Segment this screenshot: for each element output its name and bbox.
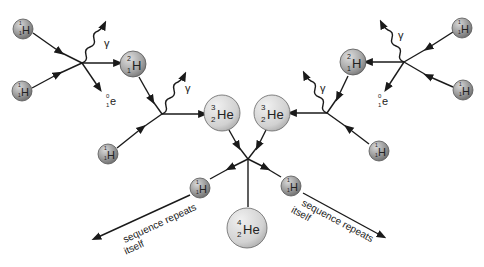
svg-text:H: H: [290, 181, 298, 193]
svg-text:3: 3: [211, 103, 216, 112]
svg-text:He: He: [217, 107, 234, 122]
svg-text:2: 2: [211, 115, 216, 124]
svg-text:H: H: [107, 149, 115, 161]
gamma-label-right-2: γ: [320, 82, 326, 94]
nucleus-h2-right: 2 1 H: [340, 49, 366, 75]
svg-text:e: e: [382, 95, 388, 107]
svg-text:H: H: [462, 85, 470, 97]
svg-text:H: H: [461, 23, 469, 35]
sequence-repeats-right-label: sequence repeats itself: [290, 194, 376, 254]
arrow-h1-in-top-right: [428, 32, 453, 48]
svg-text:4: 4: [237, 218, 242, 227]
arrow-h2-left-down: [139, 77, 152, 100]
arrow-h1-out-right: [248, 159, 266, 168]
gamma-wave-left-1: [82, 25, 104, 63]
arrow-h1-in-lower-left: [117, 128, 142, 148]
gamma-wave-left-2: [162, 76, 184, 114]
nucleus-h1-top-right: 1 1 H: [452, 18, 472, 38]
arrow-he3-left-in: [229, 130, 238, 146]
arrow-h1-in-lower-right: [348, 128, 369, 144]
arrow-h1-in-bottom-left: [32, 74, 58, 88]
nucleus-h1-lower-right: 1 1 H: [369, 141, 389, 161]
nucleus-h1-product-left: 1 1 H: [190, 178, 210, 198]
svg-text:3: 3: [261, 103, 266, 112]
positron-label-right: 0 1 e: [378, 93, 388, 108]
arrow-positron-right: [387, 62, 404, 88]
arrow-h1-in-bottom-right: [428, 76, 453, 87]
svg-text:H: H: [22, 24, 30, 36]
arrow-positron-left: [82, 63, 99, 88]
nucleus-h1-lower-left: 1 1 H: [98, 144, 118, 164]
arrow-h1-in-top-left: [33, 33, 60, 52]
nucleus-he3-left: 3 2 He: [204, 95, 240, 131]
gamma-label-left-1: γ: [104, 37, 110, 49]
sequence-repeats-left-label: sequence repeats itself: [118, 201, 203, 256]
nucleus-h1-product-right: 1 1 H: [281, 176, 301, 196]
svg-text:2: 2: [237, 230, 242, 239]
gamma-wave-right-2: [305, 75, 327, 113]
svg-text:1: 1: [347, 65, 351, 72]
gamma-label-left-2: γ: [185, 82, 191, 94]
svg-text:H: H: [21, 86, 29, 98]
nucleus-h2-left: 2 1 H: [120, 51, 146, 77]
svg-text:sequence repeats: sequence repeats: [121, 201, 198, 245]
svg-text:e: e: [110, 95, 116, 107]
svg-text:sequence repeats: sequence repeats: [300, 197, 375, 244]
gamma-label-right-1: γ: [398, 29, 404, 41]
positron-label-left: 0 1 e: [106, 93, 116, 108]
svg-text:H: H: [132, 58, 141, 73]
arrow-he3-right-in: [258, 130, 266, 146]
svg-text:He: He: [267, 107, 284, 122]
arrow-h2-right-down: [338, 76, 348, 97]
svg-text:2: 2: [127, 55, 131, 62]
pp-chain-diagram: 1 1 H 1 1 H 1 1 H 1 1 H 1 1 H 1 1 H 1 1 …: [0, 0, 484, 267]
svg-text:H: H: [352, 56, 361, 71]
svg-text:1: 1: [127, 67, 131, 74]
reaction-lines: [32, 24, 453, 238]
svg-text:2: 2: [347, 53, 351, 60]
nucleus-h1-bottom-left: 1 1 H: [12, 81, 32, 101]
nucleus-he4: 4 2 He: [227, 208, 267, 248]
svg-text:2: 2: [261, 115, 266, 124]
nucleus-h1-bottom-right: 1 1 H: [453, 80, 473, 100]
svg-text:H: H: [378, 146, 386, 158]
arrow-h1-out-left: [230, 159, 248, 168]
nucleus-h1-top-left: 1 1 H: [13, 19, 33, 39]
nucleus-he3-right: 3 2 He: [254, 95, 290, 131]
svg-text:He: He: [243, 222, 260, 237]
svg-text:H: H: [199, 183, 207, 195]
